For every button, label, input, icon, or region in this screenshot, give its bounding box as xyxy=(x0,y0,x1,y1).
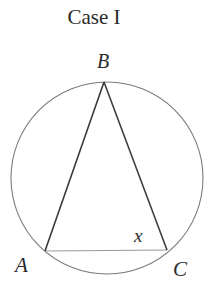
angle-label-x: x xyxy=(133,225,143,246)
vertex-label-a: A xyxy=(13,253,28,277)
vertex-label-c: C xyxy=(173,257,188,281)
vertex-label-b: B xyxy=(97,50,109,72)
edge-ab xyxy=(45,82,104,251)
triangle-in-circle-diagram: B A C x xyxy=(0,0,208,283)
circumcircle xyxy=(11,82,203,274)
edge-ac xyxy=(45,250,167,251)
